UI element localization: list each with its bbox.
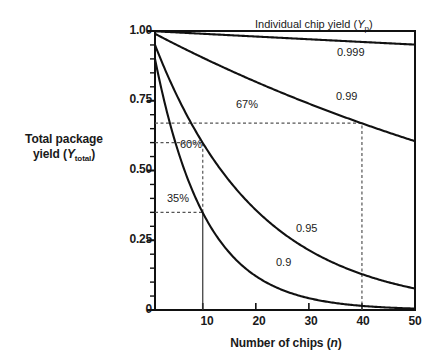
annotation-pct-60: 60% bbox=[180, 138, 202, 150]
curve-0999 bbox=[155, 31, 415, 44]
annotation-pct-35: 35% bbox=[167, 192, 189, 204]
annotation-curve-099: 0.99 bbox=[336, 90, 357, 102]
curve-09 bbox=[155, 59, 415, 309]
y-tick-label: 1.00 bbox=[108, 23, 152, 37]
y-axis-title-line1: Total package bbox=[25, 132, 103, 146]
x-tick-label-50: 50 bbox=[395, 314, 435, 328]
curve-095 bbox=[155, 45, 415, 289]
chart-figure: Total package yield (Ytotal) Number of c… bbox=[0, 0, 443, 361]
y-axis-title: Total package yield (Ytotal) bbox=[8, 132, 120, 166]
annotation-pct-67: 67% bbox=[236, 98, 258, 110]
x-tick-label-10: 10 bbox=[187, 314, 227, 328]
plot-frame bbox=[155, 31, 415, 310]
x-tick-label-20: 20 bbox=[239, 314, 279, 328]
x-tick-label-30: 30 bbox=[291, 314, 331, 328]
y-tick-label: 0 bbox=[108, 302, 152, 316]
annotation-curve-095: 0.95 bbox=[296, 222, 317, 234]
annotation-curve-09: 0.9 bbox=[276, 256, 291, 268]
y-tick-label: 0.75 bbox=[108, 92, 152, 106]
x-tick-label-40: 40 bbox=[343, 314, 383, 328]
y-axis-title-line2: yield (Ytotal) bbox=[8, 147, 120, 166]
annotation-individual-chip-yield: Individual chip yield (Yp) bbox=[255, 18, 373, 33]
x-axis-title: Number of chips (n) bbox=[155, 336, 417, 350]
annotation-curve-0999: 0.999 bbox=[337, 46, 365, 58]
y-tick-label: 0.25 bbox=[108, 232, 152, 246]
y-tick-label: 0.50 bbox=[108, 162, 152, 176]
plot-area bbox=[0, 0, 443, 361]
curve-099 bbox=[155, 34, 415, 141]
